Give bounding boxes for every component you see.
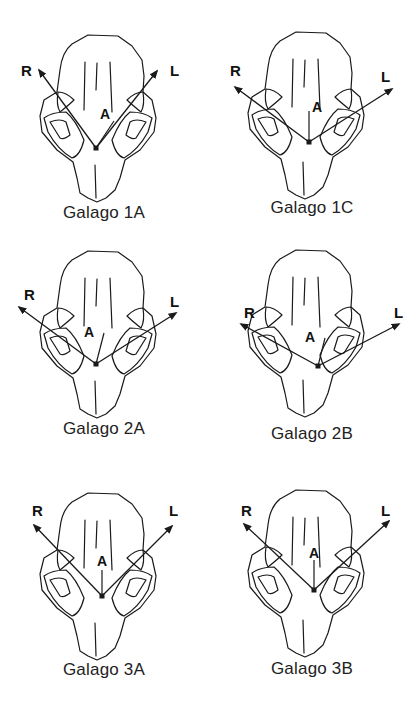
origin-point [94, 362, 99, 367]
left-vector-arrow [318, 324, 399, 366]
axis-line [96, 121, 114, 148]
skull-diagram [0, 460, 208, 690]
skull-diagram [208, 460, 416, 690]
label-a: A [97, 553, 107, 569]
skull-outline-icon [248, 32, 364, 199]
label-a: A [312, 99, 322, 115]
origin-point [94, 146, 99, 151]
skull-panel-1c: R L A Galago 1C [208, 0, 416, 230]
panel-caption: Galago 1A [0, 203, 208, 223]
origin-point [316, 364, 321, 369]
label-a: A [84, 324, 94, 340]
label-r: R [32, 502, 43, 519]
label-l: L [170, 62, 179, 79]
skull-diagram [208, 0, 416, 230]
left-vector-arrow [309, 89, 392, 142]
panel-caption: Galago 2B [208, 424, 416, 444]
skull-panel-2a: R L A Galago 2A [0, 230, 208, 460]
label-l: L [169, 502, 178, 519]
origin-point [307, 140, 312, 145]
skull-outline-icon [248, 490, 364, 657]
label-r: R [244, 304, 255, 321]
left-vector-arrow [96, 313, 176, 364]
right-vector-arrow [235, 87, 309, 142]
label-a: A [309, 545, 319, 561]
label-r: R [241, 502, 252, 519]
label-l: L [170, 293, 179, 310]
origin-point [312, 588, 317, 593]
skull-outline-icon [40, 251, 156, 418]
skull-panel-1a: R L A Galago 1A [0, 0, 208, 230]
label-a: A [305, 329, 315, 345]
label-l: L [394, 304, 403, 321]
label-r: R [21, 62, 32, 79]
panel-caption: Galago 3A [0, 660, 208, 680]
label-a: A [100, 106, 110, 122]
panel-caption: Galago 3B [208, 659, 416, 679]
origin-point [100, 594, 105, 599]
skull-outline-icon [40, 493, 156, 660]
skull-panel-2b: R L A Galago 2B [208, 230, 416, 460]
panel-caption: Galago 1C [208, 198, 416, 218]
skull-panel-3a: R L A Galago 3A [0, 460, 208, 690]
skull-panel-3b: R L A Galago 3B [208, 460, 416, 690]
panel-caption: Galago 2A [0, 419, 208, 439]
left-vector-arrow [102, 526, 172, 596]
skull-outline-icon [40, 35, 156, 202]
label-l: L [381, 502, 390, 519]
label-r: R [230, 62, 241, 79]
label-l: L [381, 68, 390, 85]
label-r: R [24, 286, 35, 303]
